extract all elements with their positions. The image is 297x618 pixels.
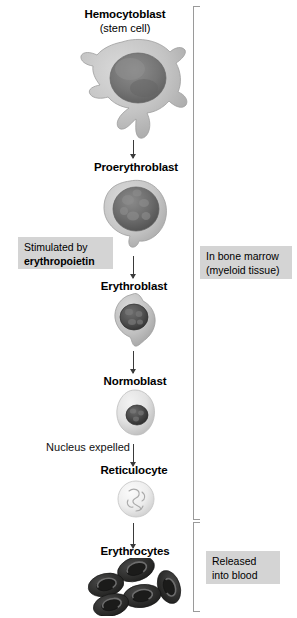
stage-sublabel-hemocytoblast: (stem cell) [0,22,250,35]
annotation-bone-marrow-line2: (myeloid tissue) [206,264,286,278]
erythroblast-cell-icon [109,292,161,350]
stage-label-hemocytoblast: Hemocytoblast [0,8,250,21]
annotation-released-line2: into blood [212,569,274,583]
bracket-in-bone-marrow [193,6,194,520]
annotation-stimulated-line1: Stimulated by [24,241,107,255]
erythropoiesis-diagram: Hemocytoblast (stem cell) P [0,0,297,618]
stage-label-normoblast: Normoblast [0,375,270,388]
stage-label-proerythroblast: Proerythroblast [0,161,272,174]
bracket-released-into-blood [193,522,194,612]
annotation-released-into-blood: Released into blood [206,551,280,584]
arrow-hemocytoblast-to-proerythroblast [133,140,134,158]
normoblast-cell-icon [113,388,159,438]
hemocytoblast-cell-icon [78,36,190,146]
annotation-stimulated-line2: erythropoietin [24,255,107,269]
annotation-released-line1: Released [212,555,274,569]
arrow-proerythroblast-to-erythroblast [133,256,134,278]
arrow-erythroblast-to-normoblast [133,351,134,373]
annotation-in-bone-marrow: In bone marrow (myeloid tissue) [200,246,292,279]
annotation-bone-marrow-line1: In bone marrow [206,250,286,264]
erythrocytes-cells-icon [84,558,194,616]
stage-label-reticulocyte: Reticulocyte [0,464,268,477]
annotation-stimulated-by-erythropoietin: Stimulated by erythropoietin [18,237,113,269]
annotation-nucleus-expelled: Nucleus expelled [28,441,148,453]
reticulocyte-cell-icon [115,478,157,520]
